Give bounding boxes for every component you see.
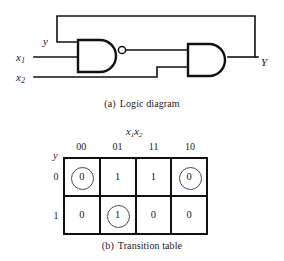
cell-value: 1 bbox=[115, 172, 120, 183]
table-cell: 0 bbox=[172, 197, 206, 233]
cell-value: 1 bbox=[115, 210, 120, 221]
column-header: 01 bbox=[99, 141, 135, 152]
caption-transition-table: (b)Transition table bbox=[0, 240, 284, 251]
caption-a-text: Logic diagram bbox=[120, 98, 180, 109]
caption-b-text: Transition table bbox=[118, 240, 182, 251]
cell-value: 1 bbox=[151, 172, 156, 183]
caption-b-tag: (b) bbox=[102, 240, 114, 251]
table-cell: 0 bbox=[172, 159, 206, 195]
and-gate-body bbox=[188, 44, 225, 76]
transition-table-grid: 0 1 1 0 0 bbox=[63, 157, 208, 235]
transition-table-figure: x1x2 00 01 11 10 y 0 1 0 1 bbox=[0, 126, 284, 241]
column-header: 11 bbox=[136, 141, 172, 152]
column-header: 00 bbox=[63, 141, 99, 152]
nand-gate-body bbox=[78, 40, 116, 72]
signal-label-x2-subscript: 2 bbox=[21, 76, 25, 85]
column-header: 10 bbox=[172, 141, 208, 152]
row-header-column: 0 1 bbox=[50, 157, 62, 235]
table-cell: 1 bbox=[101, 197, 137, 233]
table-cell: 1 bbox=[101, 159, 137, 195]
column-header-row: 00 01 11 10 bbox=[63, 141, 208, 152]
column-group-label: x1x2 bbox=[126, 126, 142, 139]
cell-value: 0 bbox=[151, 210, 156, 221]
cell-value: 0 bbox=[187, 210, 192, 221]
signal-label-Y-output: Y bbox=[261, 57, 267, 68]
nand-bubble-icon bbox=[118, 46, 125, 53]
cell-value: 0 bbox=[187, 172, 192, 183]
signal-label-x1: x1 bbox=[16, 52, 25, 65]
signal-label-x2: x2 bbox=[16, 72, 25, 85]
table-row: 0 1 1 0 bbox=[65, 159, 206, 197]
table-cell: 0 bbox=[137, 197, 173, 233]
caption-a-tag: (a) bbox=[104, 98, 115, 109]
row-header: 1 bbox=[50, 196, 62, 235]
table-cell: 0 bbox=[65, 197, 101, 233]
caption-logic-diagram: (a)Logic diagram bbox=[0, 98, 284, 109]
row-header: 0 bbox=[50, 157, 62, 196]
figure-page: y x1 x2 Y (a)Logic diagram x1x2 00 01 11… bbox=[0, 0, 284, 261]
signal-label-y: y bbox=[43, 36, 48, 47]
cell-value: 0 bbox=[79, 210, 84, 221]
signal-label-x1-subscript: 1 bbox=[21, 56, 25, 65]
cell-value: 0 bbox=[79, 172, 84, 183]
table-cell: 0 bbox=[65, 159, 101, 195]
table-row: 0 1 0 0 bbox=[65, 197, 206, 233]
column-group-sub-2: 2 bbox=[139, 131, 143, 139]
table-cell: 1 bbox=[137, 159, 173, 195]
